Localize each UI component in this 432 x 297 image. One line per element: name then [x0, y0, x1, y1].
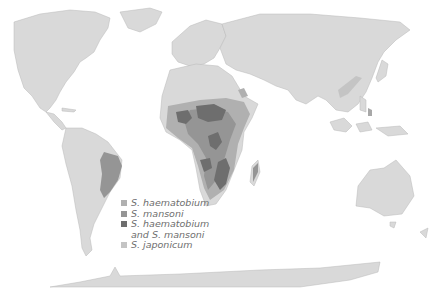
- north-america: [14, 10, 110, 112]
- legend-label: S. japonicum: [131, 240, 193, 251]
- region-japonicum-philippines: [368, 108, 372, 116]
- tasmania: [390, 222, 396, 228]
- legend-label: S. haematobium and S. mansoni: [131, 219, 209, 240]
- antarctica: [50, 262, 380, 287]
- caribbean: [62, 108, 76, 112]
- swatch-haematobium-icon: [121, 200, 127, 206]
- swatch-mansoni-icon: [121, 211, 127, 217]
- europe: [172, 20, 226, 66]
- legend-item-haematobium: S. haematobium: [121, 198, 209, 209]
- legend-label: S. haematobium: [131, 198, 209, 209]
- legend-item-both: S. haematobium and S. mansoni: [121, 219, 209, 240]
- world-map: S. haematobium S. mansoni S. haematobium…: [0, 0, 432, 297]
- region-mansoni-brazil: [100, 152, 122, 198]
- greenland: [120, 8, 162, 32]
- australia: [356, 160, 414, 216]
- central-america: [46, 112, 66, 130]
- swatch-japonicum-icon: [121, 242, 127, 248]
- swatch-both-icon: [121, 221, 127, 227]
- japan: [376, 60, 388, 82]
- map-canvas: [0, 0, 432, 297]
- legend: S. haematobium S. mansoni S. haematobium…: [121, 198, 209, 251]
- south-america: [62, 128, 122, 256]
- legend-item-japonicum: S. japonicum: [121, 240, 209, 251]
- new-zealand: [420, 228, 428, 238]
